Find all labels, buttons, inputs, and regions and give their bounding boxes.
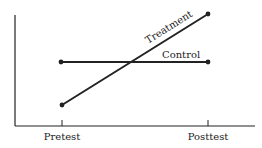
treatment-posttest-point xyxy=(206,12,211,17)
x-tick-label-posttest: Posttest xyxy=(188,131,229,142)
x-tick-label-pretest: Pretest xyxy=(44,131,81,142)
chart: Treatment Control Pretest Posttest xyxy=(0,0,262,148)
control-label: Control xyxy=(162,49,200,60)
control-posttest-point xyxy=(206,60,211,65)
control-pretest-point xyxy=(59,60,64,65)
treatment-pretest-point xyxy=(60,103,65,108)
